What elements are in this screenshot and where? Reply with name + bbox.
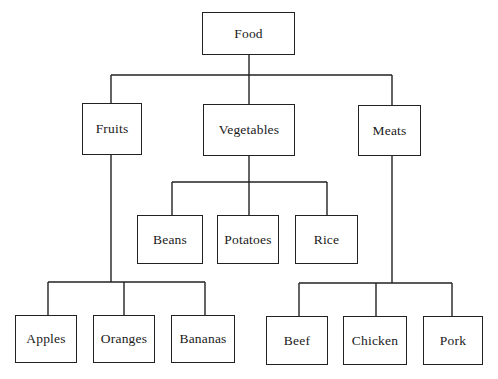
node-label: Fruits xyxy=(96,121,129,137)
node-food: Food xyxy=(202,12,295,55)
node-beef: Beef xyxy=(266,316,328,365)
node-label: Beans xyxy=(153,232,187,248)
node-rice: Rice xyxy=(295,215,358,264)
node-meats: Meats xyxy=(358,105,421,156)
node-label: Beef xyxy=(284,333,310,349)
node-bananas: Bananas xyxy=(171,315,235,363)
node-label: Potatoes xyxy=(224,232,271,248)
node-vegetables: Vegetables xyxy=(203,104,295,156)
node-oranges: Oranges xyxy=(93,315,155,363)
node-label: Food xyxy=(234,26,263,42)
node-label: Vegetables xyxy=(219,122,279,138)
node-label: Chicken xyxy=(352,333,398,349)
node-chicken: Chicken xyxy=(343,316,407,365)
node-fruits: Fruits xyxy=(82,103,142,155)
node-pork: Pork xyxy=(423,316,483,365)
node-label: Rice xyxy=(314,232,340,248)
node-label: Apples xyxy=(26,331,65,347)
node-label: Oranges xyxy=(101,331,147,347)
node-apples: Apples xyxy=(15,315,77,363)
node-label: Meats xyxy=(373,123,407,139)
node-label: Pork xyxy=(440,333,466,349)
node-beans: Beans xyxy=(137,215,203,264)
node-label: Bananas xyxy=(179,331,226,347)
node-potatoes: Potatoes xyxy=(217,215,279,264)
